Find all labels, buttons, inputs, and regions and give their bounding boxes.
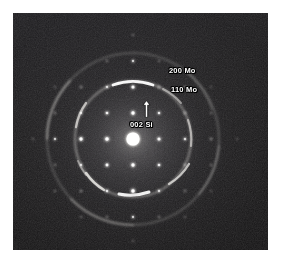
diffraction-spot: 60-2: [209, 163, 212, 166]
diffraction-spot: 404: [183, 85, 187, 89]
diffraction-spot: 800: [236, 138, 239, 141]
diffraction-spot-core: [132, 60, 134, 62]
diffraction-spot: 40-2: [183, 163, 187, 167]
diffraction-spot: 206: [157, 59, 160, 62]
diffraction-spot: -404: [79, 85, 83, 89]
diffraction-spot: 602: [209, 111, 212, 114]
diffraction-spot-core: [106, 112, 109, 115]
diffraction-spot: -40-6: [79, 215, 82, 218]
diffraction-spot-core: [131, 163, 134, 166]
diffraction-spot: -40-4: [79, 189, 83, 193]
diffraction-spot-core: [157, 137, 160, 140]
diffraction-spot-core: [54, 138, 56, 140]
diffraction-spot-core: [158, 190, 160, 192]
diffraction-spot: 604: [210, 86, 213, 89]
diffraction-figure: 002 Si00-2-200200-202202-20-220-200400-4…: [0, 0, 282, 268]
diffraction-spot-core: [131, 189, 134, 192]
diffraction-spot: -206: [105, 59, 109, 63]
diffraction-spot-core: [80, 164, 82, 166]
diffraction-spot-core: [79, 137, 82, 140]
diffraction-spot-core: [184, 138, 187, 141]
diffraction-spot: 60-4: [210, 190, 213, 193]
diffraction-spot-core: [105, 137, 108, 140]
diffraction-spot: -20-6: [105, 215, 109, 219]
diffraction-spot: -800: [32, 138, 35, 141]
diffraction-spot: -60-4: [53, 189, 56, 192]
diffraction-spot-core: [131, 111, 134, 114]
diffraction-spot: 402: [183, 111, 187, 115]
diffraction-plate: 002 Si00-2-200200-202202-20-220-200400-4…: [13, 13, 268, 250]
diffraction-spot-core: [158, 164, 161, 167]
diffraction-spot: -604: [54, 86, 57, 89]
diffraction-spot: 600: [209, 137, 213, 141]
diffraction-spot-core: [131, 85, 134, 88]
diffraction-spot: 204: [157, 85, 161, 89]
diffraction-spot: -602: [53, 111, 57, 115]
diffraction-spot: 20-6: [157, 215, 161, 219]
direct-beam-spot: [114, 120, 152, 158]
diffraction-spot-core: [80, 112, 82, 114]
diffraction-pattern: 002 Si00-2-200200-202202-20-220-200400-4…: [13, 13, 268, 250]
diffraction-spot-core: [106, 190, 109, 193]
diffraction-spot: 40-6: [184, 216, 187, 219]
diffraction-spot-core: [158, 112, 161, 115]
diffraction-spot-core: [132, 216, 134, 218]
diffraction-spot: -60-2: [53, 163, 57, 167]
arrow-up-icon: [142, 100, 151, 118]
diffraction-spot: 00-8: [132, 240, 135, 243]
diffraction-spot-core: [106, 164, 109, 167]
diffraction-spot: 008: [131, 33, 134, 36]
diffraction-spot: 40-4: [183, 189, 187, 193]
diffraction-spot-core: [106, 86, 108, 88]
